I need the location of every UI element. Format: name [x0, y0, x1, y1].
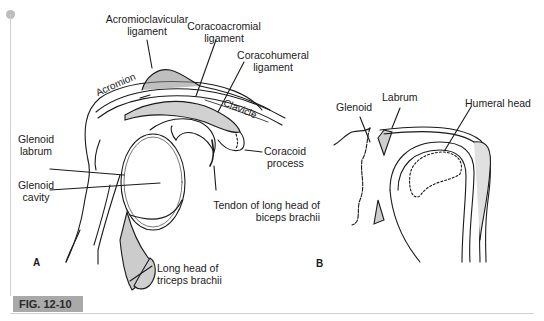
label-labrum: Labrum: [382, 92, 418, 104]
label-line: labrum: [16, 146, 56, 158]
label-line: ligament: [176, 33, 272, 45]
label-coracoacromial-ligament: Coracoacromial ligament: [176, 21, 272, 44]
label-line: Long head of: [157, 263, 222, 275]
label-line: Coracohumeral: [232, 50, 314, 62]
label-glenoid: Glenoid: [336, 102, 372, 114]
label-line: biceps brachii: [190, 212, 320, 224]
label-line: cavity: [16, 192, 56, 204]
label-biceps-tendon: Tendon of long head of biceps brachii: [190, 200, 320, 223]
figure-tag: FIG. 12-10: [13, 296, 83, 312]
panel-letter-b: B: [316, 258, 323, 269]
label-line: ligament: [232, 62, 314, 74]
label-triceps-long-head: Long head of triceps brachii: [157, 263, 222, 286]
panel-letter-a: A: [33, 257, 40, 268]
label-line: Glenoid: [16, 180, 56, 192]
label-line: Coracoid: [264, 146, 306, 158]
figure-12-10: Acromioclavicular ligament Coracoacromia…: [0, 0, 544, 321]
label-coracohumeral-ligament: Coracohumeral ligament: [232, 50, 314, 73]
label-glenoid-labrum: Glenoid labrum: [16, 134, 56, 157]
label-coracoid-process: Coracoid process: [264, 146, 306, 169]
label-glenoid-cavity: Glenoid cavity: [16, 180, 56, 203]
label-line: Glenoid: [16, 134, 56, 146]
label-humeral-head: Humeral head: [465, 98, 531, 110]
label-line: triceps brachii: [157, 275, 222, 287]
label-line: process: [264, 158, 306, 170]
label-line: Coracoacromial: [176, 21, 272, 33]
label-line: Tendon of long head of: [190, 200, 320, 212]
